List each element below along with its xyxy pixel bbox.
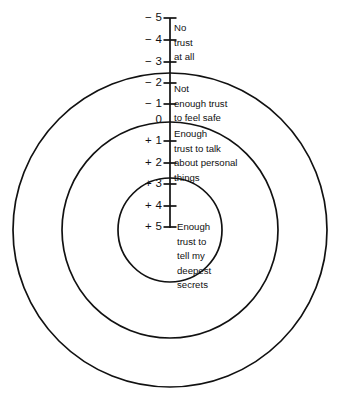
tick-label-1: + 1 (132, 135, 162, 147)
tick-label-4: + 4 (132, 200, 162, 212)
deepest-secrets-label-line-1: Enough (177, 220, 211, 235)
enough-trust-to-talk-label-line-1: Enough (174, 127, 237, 142)
not-enough-trust-label: Notenough trustto feel safe (174, 82, 227, 126)
enough-trust-to-talk-label-line-4: things (174, 171, 237, 186)
no-trust-at-all-label-line-1: No (174, 21, 194, 36)
tick-label--2: − 2 (132, 77, 162, 89)
enough-trust-to-talk-label-line-3: about personal (174, 156, 237, 171)
concentric-circles-graphic (0, 0, 340, 397)
no-trust-at-all-label-line-2: trust (174, 36, 194, 51)
trust-circles-diagram: − 5− 4− 3− 2− 10+ 1+ 2+ 3+ 4+ 5 Notrusta… (0, 0, 340, 397)
not-enough-trust-label-line-1: Not (174, 82, 227, 97)
tick-label--1: − 1 (132, 98, 162, 110)
not-enough-trust-label-line-3: to feel safe (174, 111, 227, 126)
tick-label-2: + 2 (132, 157, 162, 169)
deepest-secrets-label-line-3: tell my (177, 249, 211, 264)
no-trust-at-all-label: Notrustat all (174, 21, 194, 65)
enough-trust-to-talk-label-line-2: trust to talk (174, 142, 237, 157)
enough-trust-to-talk-label: Enoughtrust to talkabout personalthings (174, 127, 237, 185)
no-trust-at-all-label-line-3: at all (174, 50, 194, 65)
deepest-secrets-label-line-2: trust to (177, 235, 211, 250)
deepest-secrets-label-line-4: deepest (177, 264, 211, 279)
tick-label--4: − 4 (132, 34, 162, 46)
not-enough-trust-label-line-2: enough trust (174, 97, 227, 112)
tick-label--5: − 5 (132, 12, 162, 24)
deepest-secrets-label-line-5: secrets (177, 278, 211, 293)
deepest-secrets-label: Enoughtrust totell mydeepestsecrets (177, 220, 211, 293)
tick-label-0: 0 (132, 114, 162, 126)
tick-label--3: − 3 (132, 56, 162, 68)
tick-label-3: + 3 (132, 178, 162, 190)
tick-label-5: + 5 (132, 221, 162, 233)
